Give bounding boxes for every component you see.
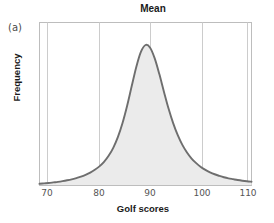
x-tick-100: 100 [187, 188, 217, 198]
x-axis-label: Golf scores [0, 203, 274, 214]
x-tick-70: 70 [32, 188, 62, 198]
x-tick-90: 90 [135, 188, 165, 198]
x-tick-80: 80 [84, 188, 114, 198]
figure-panel: Mean (a) Frequency 70 80 90 100 110 Golf… [0, 0, 274, 223]
x-tick-110: 110 [233, 188, 263, 198]
